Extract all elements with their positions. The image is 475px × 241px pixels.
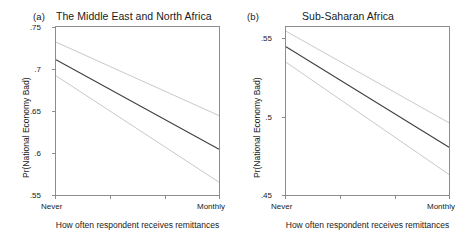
panel-b-xtick-label-monthly: Monthly — [427, 202, 455, 211]
panel-b-xtick-mark — [449, 196, 450, 199]
panel-a-xtick-mark — [165, 196, 166, 199]
figure-panel-container: (a) The Middle East and North Africa Pr(… — [0, 0, 475, 241]
panel-a-ci-lower-line — [56, 76, 219, 182]
panel-b-tag: (b) — [247, 11, 259, 22]
panel-a-x-axis-title: How often respondent receives remittance… — [30, 220, 245, 230]
panel-b-ytick-label: .45 — [251, 191, 272, 200]
panel-b-lines — [285, 26, 450, 196]
panel-a-xtick-mark — [110, 196, 111, 199]
panel-b-xtick-mark — [285, 196, 286, 199]
panel-a-tag: (a) — [33, 11, 45, 22]
panel-b-fit-line — [286, 47, 449, 148]
panel-b-ci-lower-line — [286, 62, 449, 174]
panel-b-y-axis-title: Pr(National Economy Bad) — [252, 77, 262, 178]
panel-b-title: Sub-Saharan Africa — [302, 10, 394, 22]
panel-b-ytick-label: .55 — [251, 34, 272, 43]
panel-b-ci-upper-line — [286, 31, 449, 123]
panel-a-ytick-label: .6 — [20, 149, 41, 158]
panel-b-xtick-mark — [395, 196, 396, 199]
panel-b: (b) Sub-Saharan Africa Pr(National Econo… — [237, 0, 474, 241]
panel-a-ytick-label: .55 — [20, 191, 41, 200]
panel-b-xtick-label-never: Never — [271, 202, 292, 211]
panel-a-y-axis-title: Pr(National Economy Bad) — [21, 77, 31, 178]
panel-a-ytick-label: .75 — [20, 23, 41, 32]
panel-a-title: The Middle East and North Africa — [56, 10, 212, 22]
panel-b-ytick-label: .5 — [251, 113, 272, 122]
panel-b-xtick-mark — [340, 196, 341, 199]
panel-a-ytick-label: .65 — [20, 107, 41, 116]
panel-a-xtick-mark — [219, 196, 220, 199]
panel-a-xtick-label-monthly: Monthly — [197, 202, 225, 211]
panel-a-xtick-mark — [55, 196, 56, 199]
panel-a-xtick-label-never: Never — [41, 202, 62, 211]
panel-a: (a) The Middle East and North Africa Pr(… — [0, 0, 237, 241]
panel-a-ytick-label: .7 — [20, 65, 41, 74]
panel-b-x-axis-title: How often respondent receives remittance… — [260, 220, 475, 230]
panel-a-lines — [55, 26, 220, 196]
